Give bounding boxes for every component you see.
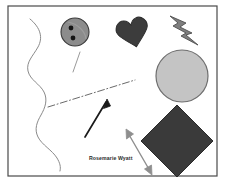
button-circle-dot-lower	[71, 36, 76, 41]
drawing-canvas[interactable]: Rosemarie Wyatt	[0, 0, 226, 183]
button-circle-shape[interactable]	[61, 18, 89, 46]
button-circle-body	[61, 18, 89, 46]
large-circle-shape[interactable]	[156, 50, 208, 102]
name-label: Rosemarie Wyatt	[89, 156, 133, 161]
button-circle-dot-upper	[69, 26, 74, 31]
